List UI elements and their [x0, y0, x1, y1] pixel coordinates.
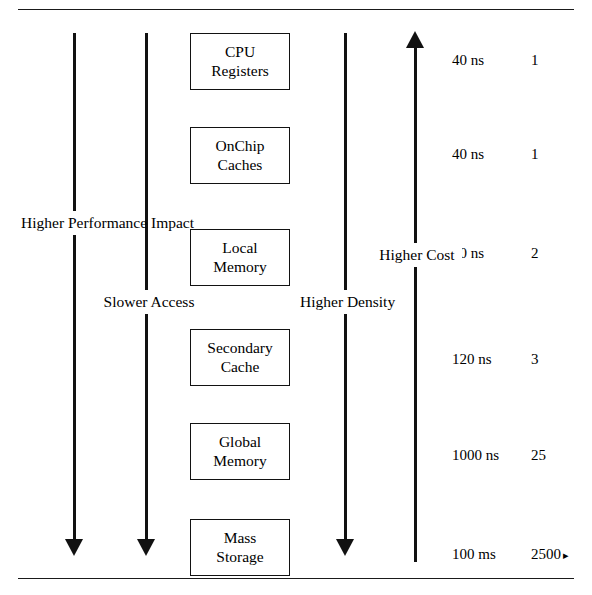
ratio-value-wrapper: 3 [531, 351, 539, 368]
axis-label-line: Performance [68, 214, 147, 231]
axis-label-line: Density [347, 293, 395, 310]
axis-label-line: Access [151, 293, 195, 310]
axis-label-line: Higher [379, 246, 422, 263]
ratio-value: 1 [531, 52, 539, 68]
level-label-line: Storage [216, 548, 263, 567]
level-box-global-memory[interactable]: Global Memory [190, 423, 290, 480]
memory-hierarchy-diagram: Higher Performance Impact Slower Access … [0, 0, 592, 595]
latency-value: 40 ns [452, 146, 484, 163]
level-label-line: OnChip [215, 137, 264, 156]
ratio-value-wrapper: 1 [531, 146, 539, 163]
level-box-mass-storage[interactable]: Mass Storage [190, 519, 290, 576]
latency-value: 1000 ns [452, 447, 499, 464]
level-label-line: Local [222, 239, 257, 258]
axis-label-performance-impact: Higher Performance Impact [18, 211, 136, 235]
ratio-value-wrapper: 2 [531, 245, 539, 262]
arrow-head-density [336, 539, 354, 556]
latency-value: 100 ms [452, 546, 496, 563]
axis-label-access-speed: Slower Access [100, 290, 198, 314]
arrow-shaft-performance-impact [73, 33, 76, 541]
level-box-secondary-cache[interactable]: Secondary Cache [190, 329, 290, 386]
level-label-line: Global [219, 433, 261, 452]
arrow-shaft-cost [414, 47, 417, 562]
level-label-line: Cache [221, 358, 260, 377]
ratio-value-wrapper: 2500▸ [531, 546, 569, 563]
level-box-onchip-caches[interactable]: OnChip Caches [190, 127, 290, 184]
level-label-line: Mass [224, 529, 257, 548]
arrow-shaft-access-speed [145, 33, 148, 541]
latency-value: 40 ns [452, 52, 484, 69]
ratio-value-wrapper: 1 [531, 52, 539, 69]
arrow-head-performance-impact [65, 539, 83, 556]
axis-label-line: Higher [21, 214, 64, 231]
frame-rule-top [18, 9, 574, 10]
ratio-footnote-marker-icon: ▸ [563, 549, 569, 562]
level-label-line: CPU [225, 43, 255, 62]
level-box-local-memory[interactable]: Local Memory [190, 229, 290, 286]
level-box-cpu-registers[interactable]: CPU Registers [190, 33, 290, 90]
ratio-value: 2500 [531, 546, 561, 562]
axis-label-cost: Higher Cost [372, 243, 462, 267]
level-label-line: Memory [213, 258, 266, 277]
axis-label-line: Cost [426, 246, 454, 263]
arrow-shaft-density [344, 33, 347, 541]
latency-value: 120 ns [452, 351, 492, 368]
axis-label-line: Impact [151, 214, 194, 231]
axis-label-line: Slower [104, 293, 148, 310]
ratio-value: 3 [531, 351, 539, 367]
axis-label-line: Higher [300, 293, 343, 310]
ratio-value: 25 [531, 447, 546, 463]
arrow-head-cost [406, 31, 424, 48]
arrow-head-access-speed [137, 539, 155, 556]
ratio-value: 2 [531, 245, 539, 261]
axis-label-density: Higher Density [297, 290, 397, 314]
ratio-value: 1 [531, 146, 539, 162]
level-label-line: Registers [211, 62, 269, 81]
ratio-value-wrapper: 25 [531, 447, 546, 464]
level-label-line: Caches [218, 156, 263, 175]
level-label-line: Secondary [207, 339, 272, 358]
frame-rule-bottom [18, 578, 574, 579]
level-label-line: Memory [213, 452, 266, 471]
